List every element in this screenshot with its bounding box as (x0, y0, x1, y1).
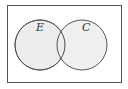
venn-diagram: E C (0, 0, 128, 89)
set-e-label: E (35, 21, 44, 34)
set-c-label: C (82, 21, 91, 34)
